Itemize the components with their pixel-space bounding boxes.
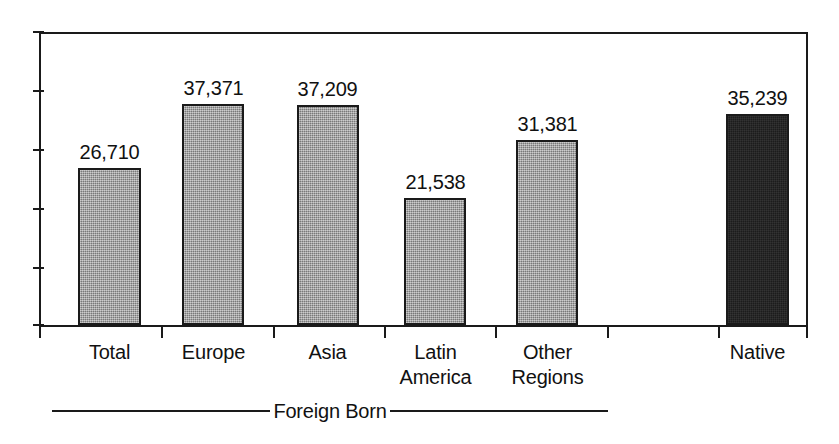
x-axis-label-asia: Asia (266, 340, 389, 365)
bracket-rule-left (52, 410, 270, 412)
x-axis-label-latin-america-line1: Latin (374, 340, 497, 365)
x-axis-label-native: Native (696, 340, 819, 365)
x-axis-label-europe: Europe (152, 340, 275, 365)
x-axis-label-other-regions-line2: Regions (486, 365, 609, 390)
value-label-other-regions: 31,381 (486, 113, 609, 136)
x-axis-label-latin-america: Latin America (374, 340, 497, 390)
value-label-total: 26,710 (48, 141, 171, 164)
bar-native[interactable] (726, 114, 789, 325)
y-axis-tick (33, 324, 44, 326)
value-label-asia: 37,209 (266, 78, 389, 101)
x-axis-label-other-regions: Other Regions (486, 340, 609, 390)
x-axis-tick (39, 327, 41, 338)
bracket-rule-right (390, 410, 608, 412)
y-axis-tick (33, 149, 44, 151)
x-axis-tick (273, 327, 275, 338)
y-axis-tick (33, 267, 44, 269)
bar-other-regions[interactable] (516, 140, 578, 325)
y-axis-tick (33, 208, 44, 210)
bar-total[interactable] (78, 168, 141, 325)
x-axis-tick (718, 327, 720, 338)
x-axis-label-asia-line1: Asia (266, 340, 389, 365)
x-axis-tick (161, 327, 163, 338)
value-label-native: 35,239 (696, 87, 819, 110)
foreign-born-group-bracket: Foreign Born (52, 401, 608, 421)
y-axis-tick (33, 90, 44, 92)
bar-latin-america[interactable] (404, 198, 466, 325)
x-axis-label-other-regions-line1: Other (486, 340, 609, 365)
value-label-europe: 37,371 (152, 77, 275, 100)
bar-asia[interactable] (297, 105, 359, 325)
x-axis-tick (384, 327, 386, 338)
bracket-label: Foreign Born (270, 401, 389, 421)
x-axis-tick (806, 327, 808, 338)
bar-chart-figure: 26,710 37,371 37,209 21,538 31,381 35,23… (0, 0, 839, 444)
y-axis-tick (33, 31, 44, 33)
x-axis-label-europe-line1: Europe (152, 340, 275, 365)
bar-europe[interactable] (182, 104, 244, 325)
x-axis-label-native-line1: Native (696, 340, 819, 365)
x-axis-tick (607, 327, 609, 338)
value-label-latin-america: 21,538 (374, 171, 497, 194)
x-axis-tick (495, 327, 497, 338)
x-axis-label-latin-america-line2: America (374, 365, 497, 390)
